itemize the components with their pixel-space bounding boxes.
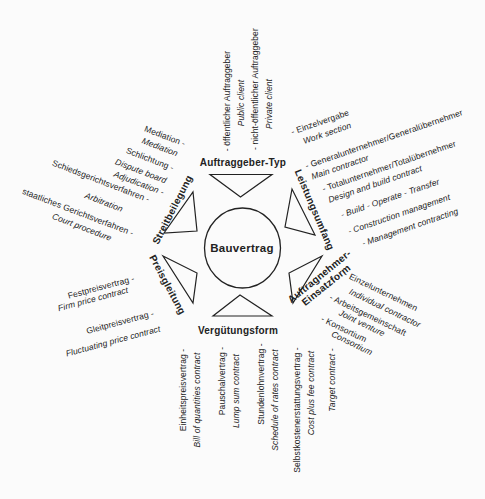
item-en: Lump sum contract [231, 354, 241, 428]
item-de: - nicht-öffentlicher Auftraggeber [250, 28, 260, 150]
item-de: - öffentlicher Auftraggeber [222, 51, 232, 151]
morphology-diagram: Bauvertrag Auftraggeber-Typ - öffentlich… [0, 0, 485, 499]
item-en: Cost plus fee contract [306, 351, 316, 435]
center-label: Bauvertrag [210, 243, 274, 253]
item-de: Einheitspreisvertrag - [178, 349, 188, 432]
item-en: Public client [236, 80, 246, 127]
item-de: Stundenlohnvertrag - [256, 343, 266, 424]
item-de: Pauschalvertrag - [217, 347, 227, 415]
item-en: Target contract - [327, 348, 337, 411]
item-en: Schedule of rates contract [270, 349, 280, 450]
axis-label-auftraggeber-typ: Auftraggeber-Typ [200, 158, 286, 169]
axis-arrow-bottom [213, 295, 272, 316]
axis-arrow-top [210, 175, 272, 198]
item-en: Private client [264, 79, 274, 129]
item-de: Selbstkostenerstattungsvertrag - [292, 347, 302, 473]
item-en: Bill of quantities contract [192, 353, 202, 448]
axis-label-verguetungsform: Vergütungsform [198, 326, 278, 337]
